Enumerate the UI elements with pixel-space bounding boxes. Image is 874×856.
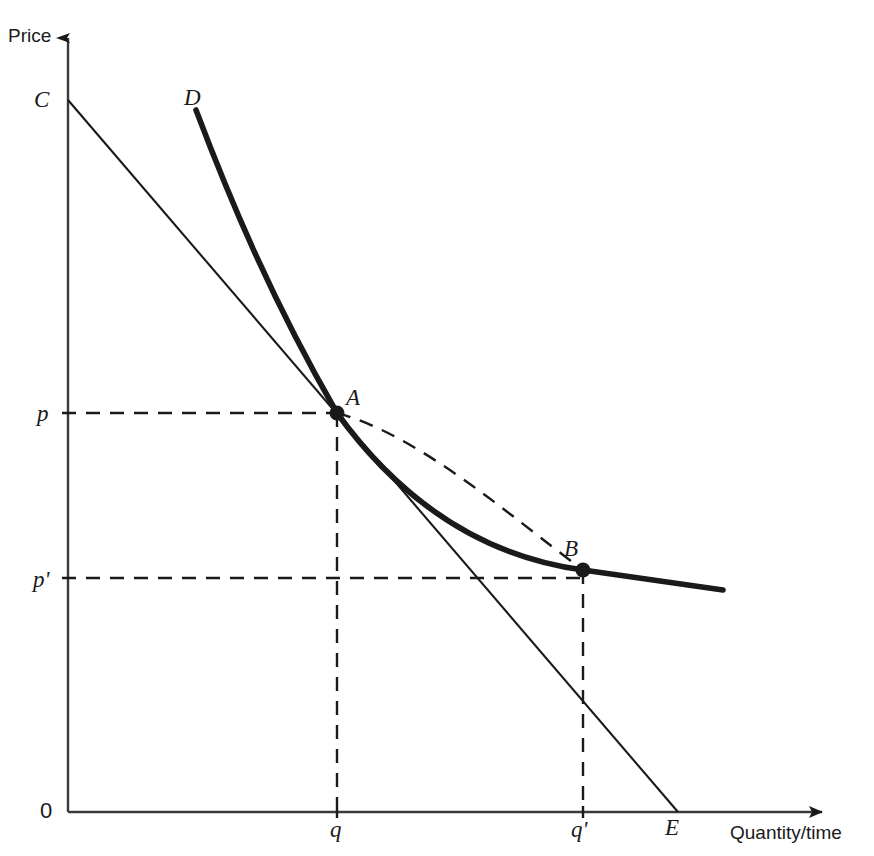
label-D: D: [184, 86, 201, 109]
origin-label: 0: [40, 800, 52, 822]
y-axis-title: Price: [8, 26, 51, 45]
x-tick-label-q: q: [330, 818, 342, 841]
x-tick-label-q-prime: q': [571, 818, 587, 841]
curve-D: [196, 110, 723, 590]
y-tick-label-p-prime: p': [33, 568, 49, 591]
plot-canvas: [0, 0, 874, 856]
y-tick-label-p: p: [37, 402, 49, 425]
label-B: B: [564, 537, 578, 560]
economics-demand-curve-figure: Price Quantity/time C D A B E p p' q q' …: [0, 0, 874, 856]
label-A: A: [346, 386, 360, 409]
point-A-marker: [330, 406, 345, 421]
x-axis-title: Quantity/time: [730, 823, 842, 842]
label-C: C: [34, 88, 49, 111]
dashed-arc-AB: [337, 413, 583, 570]
point-B-marker: [576, 563, 591, 578]
label-E: E: [665, 816, 679, 839]
